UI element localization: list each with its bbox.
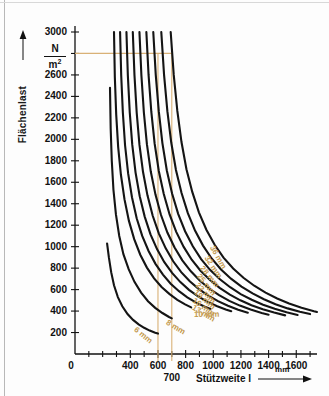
y-tick-label: 1600	[33, 176, 67, 187]
y-tick-label: 2000	[33, 133, 67, 144]
x-axis-title: Stützweite l	[196, 373, 251, 384]
y-tick-label: 400	[33, 305, 67, 316]
y-tick-label: 2600	[33, 69, 67, 80]
curve-36-mm	[171, 32, 317, 312]
x-origin-label: 0	[54, 360, 88, 371]
curve-6-mm	[107, 243, 158, 333]
y-tick-label: 2400	[33, 90, 67, 101]
y-tick-label: 3000	[33, 26, 67, 37]
curve-10-mm	[114, 32, 191, 307]
x-axis-arrow-icon	[258, 376, 312, 383]
figure-root: Flächenlast N m2 20040060080010001200140…	[0, 0, 329, 396]
y-tick-label: 1200	[33, 219, 67, 230]
y-tick-label: 1400	[33, 198, 67, 209]
x-axis-unit: mm	[275, 365, 289, 374]
y-tick-label: 2200	[33, 112, 67, 123]
y-tick-label: 1800	[33, 155, 67, 166]
y-tick-label: 200	[33, 327, 67, 338]
y-tick-label: 600	[33, 284, 67, 295]
guide-callout-700: 700	[155, 372, 189, 383]
y-tick-label: 800	[33, 262, 67, 273]
y-tick-label: 1000	[33, 241, 67, 252]
